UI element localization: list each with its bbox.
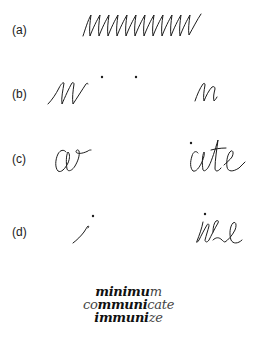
handwriting-cate xyxy=(191,140,245,171)
dot-c xyxy=(190,142,192,144)
scribble-a xyxy=(83,14,201,36)
dot-b-1 xyxy=(101,76,103,78)
scribble-b-left xyxy=(48,83,88,104)
dot-d-right xyxy=(204,213,206,215)
word-immunize-core: immuni xyxy=(94,310,149,325)
word-immunize: immunize xyxy=(0,312,257,324)
scribble-b-right xyxy=(195,83,217,101)
dot-b-2 xyxy=(135,76,137,78)
dot-d-left xyxy=(92,215,94,217)
handwriting-ize xyxy=(197,221,242,243)
handwriting-i xyxy=(73,226,89,243)
handwriting-co xyxy=(56,150,91,172)
word-immunize-suffix: ze xyxy=(149,310,163,325)
